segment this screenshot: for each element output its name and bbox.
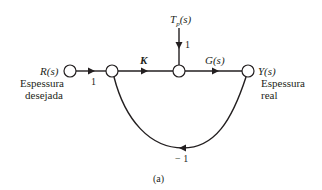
disturbance-label-tail: (s) bbox=[180, 13, 192, 25]
node-input bbox=[64, 65, 76, 77]
branch-feedback bbox=[114, 77, 246, 152]
input-desc-line1: Espessura bbox=[20, 78, 64, 89]
output-label: Y(s) bbox=[258, 66, 276, 77]
figure-caption: (a) bbox=[153, 174, 164, 184]
signal-flow-diagram: R(s) Espessura desejada Y(s) Espessura r… bbox=[0, 0, 322, 190]
branch-plant bbox=[185, 68, 242, 75]
node-sum bbox=[106, 65, 118, 77]
branch-disturbance bbox=[176, 28, 183, 65]
node-output bbox=[242, 65, 254, 77]
branch-input bbox=[76, 68, 106, 75]
controller-gain-label: K bbox=[140, 55, 147, 66]
feedback-gain-label: − 1 bbox=[175, 154, 188, 164]
disturbance-label: Tp(s) bbox=[170, 14, 191, 28]
plant-gain-label: G(s) bbox=[205, 55, 225, 66]
disturbance-gain-label: 1 bbox=[185, 40, 190, 50]
input-label: R(s) bbox=[40, 66, 58, 77]
node-disturbance bbox=[173, 65, 185, 77]
input-gain-label: 1 bbox=[91, 77, 96, 87]
output-desc-line2: real bbox=[261, 90, 277, 101]
branch-controller bbox=[118, 68, 173, 75]
output-desc-line1: Espessura bbox=[261, 78, 305, 89]
input-desc-line2: desejada bbox=[25, 90, 63, 101]
